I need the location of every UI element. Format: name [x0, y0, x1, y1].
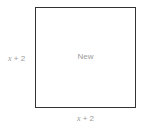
- square-center-label: New: [35, 52, 136, 61]
- bottom-side-length-label: x + 2: [35, 114, 136, 123]
- left-side-expression-rest: + 2: [12, 54, 26, 63]
- bottom-side-expression-rest: + 2: [80, 114, 94, 123]
- left-side-length-label: x + 2: [8, 54, 25, 63]
